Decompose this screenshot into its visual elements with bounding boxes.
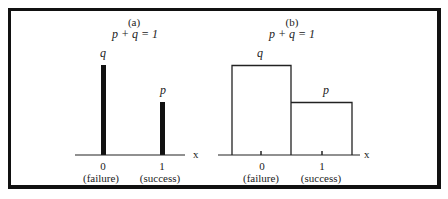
panel-b-equation: p + q = 1 xyxy=(268,27,315,41)
panel-a-caption-failure: (failure) xyxy=(83,172,119,185)
panel-a-p-label: p xyxy=(159,83,166,97)
panel-a-q-label: q xyxy=(100,46,106,60)
panel-a-equation: p + q = 1 xyxy=(111,27,158,41)
panel-b-p-label: p xyxy=(322,83,329,97)
panel-b-q-label: q xyxy=(257,46,263,60)
panel-b-caption-success: (success) xyxy=(301,172,342,185)
panel-a-q-spike xyxy=(101,65,106,155)
panel-b-axis-label: x xyxy=(364,148,370,160)
panel-a-axis-label: x xyxy=(193,148,199,160)
panel-b-q-rect xyxy=(232,66,291,156)
panel-b-caption-failure: (failure) xyxy=(243,172,279,185)
panel-a-caption-success: (success) xyxy=(140,172,181,185)
panel-a-tick-1: 1 xyxy=(159,160,165,172)
bernoulli-figure: (a) p + q = 1 q p x 0 (failure) 1 (succe… xyxy=(0,0,448,199)
panel-b-tick-1: 1 xyxy=(319,160,325,172)
panel-b-tick-0: 0 xyxy=(259,160,265,172)
panel-a-tick-0: 0 xyxy=(100,160,106,172)
panel-b: (b) p + q = 1 q p x 0 (failure) 1 (succe… xyxy=(218,16,370,185)
panel-a: (a) p + q = 1 q p x 0 (failure) 1 (succe… xyxy=(75,16,199,185)
panel-b-p-rect xyxy=(291,103,352,156)
panel-a-p-spike xyxy=(160,102,165,155)
